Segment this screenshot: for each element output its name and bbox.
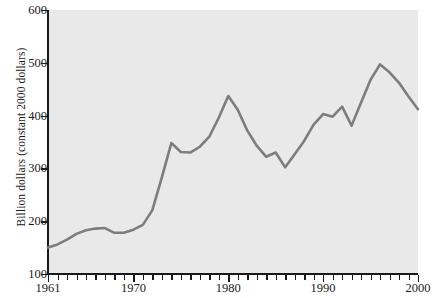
y-tick-label-600: 600 <box>0 3 47 18</box>
x-tick-1999 <box>409 275 410 280</box>
x-tick-label-1990: 1990 <box>293 281 353 296</box>
x-tick-1986 <box>285 275 286 280</box>
x-tick-1979 <box>219 275 220 280</box>
x-tick-1994 <box>361 275 362 280</box>
x-tick-1985 <box>276 275 277 280</box>
x-tick-1963 <box>67 275 68 280</box>
x-tick-1975 <box>181 275 182 280</box>
x-tick-1972 <box>152 275 153 280</box>
x-tick-1982 <box>247 275 248 280</box>
x-tick-1971 <box>143 275 144 280</box>
x-tick-label-1961: 1961 <box>18 281 78 296</box>
x-tick-label-1970: 1970 <box>103 281 163 296</box>
x-tick-1966 <box>95 275 96 280</box>
y-axis-line <box>47 10 49 275</box>
x-tick-1989 <box>314 275 315 280</box>
x-tick-1977 <box>200 275 201 280</box>
x-tick-1967 <box>105 275 106 280</box>
line-chart: Billion dollars (constant 2000 dollars) … <box>0 0 441 298</box>
x-tick-1987 <box>295 275 296 280</box>
x-tick-label-2000: 2000 <box>388 281 441 296</box>
x-tick-1991 <box>333 275 334 280</box>
x-tick-1973 <box>162 275 163 280</box>
x-tick-1969 <box>124 275 125 280</box>
x-tick-1964 <box>77 275 78 280</box>
x-tick-1998 <box>399 275 400 280</box>
x-tick-1981 <box>238 275 239 280</box>
y-tick-label-100: 100 <box>0 267 47 282</box>
x-tick-1974 <box>171 275 172 280</box>
x-tick-1984 <box>266 275 267 280</box>
x-tick-1997 <box>390 275 391 280</box>
x-tick-1965 <box>86 275 87 280</box>
y-tick-label-400: 400 <box>0 109 47 124</box>
x-tick-label-1980: 1980 <box>198 281 258 296</box>
x-tick-1988 <box>304 275 305 280</box>
x-tick-1993 <box>352 275 353 280</box>
x-tick-1962 <box>58 275 59 280</box>
y-tick-label-500: 500 <box>0 56 47 71</box>
x-tick-1976 <box>190 275 191 280</box>
y-tick-label-200: 200 <box>0 214 47 229</box>
x-tick-1992 <box>342 275 343 280</box>
y-tick-label-300: 300 <box>0 161 47 176</box>
plot-area <box>48 10 418 274</box>
x-tick-1995 <box>371 275 372 280</box>
x-tick-1968 <box>114 275 115 280</box>
x-tick-1996 <box>380 275 381 280</box>
x-tick-1978 <box>209 275 210 280</box>
x-tick-1983 <box>257 275 258 280</box>
